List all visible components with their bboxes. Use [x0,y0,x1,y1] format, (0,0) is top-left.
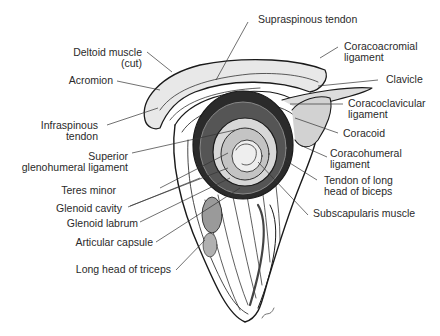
label-text: glenohumeral ligament [4,162,128,173]
label-text: Long head of triceps [76,263,171,275]
label-coracoclavicular-ligament: Coracoclavicular ligament [348,98,426,120]
label-articular-capsule: Articular capsule [40,237,153,248]
label-text: ligament [344,52,418,63]
label-teres-minor: Teres minor [40,185,116,196]
label-coracoid: Coracoid [343,128,385,139]
label-superior-glenohumeral-ligament: Superior glenohumeral ligament [4,151,128,173]
label-clavicle: Clavicle [386,74,423,85]
label-text: tendon [30,131,98,142]
label-infraspinous-tendon: Infraspinous tendon [30,120,98,142]
label-text: Articular capsule [75,236,153,248]
label-supraspinous-tendon: Supraspinous tendon [258,14,357,25]
label-subscapularis-muscle: Subscapularis muscle [313,208,415,219]
label-text: head of biceps [324,186,393,197]
label-coracohumeral-ligament: Coracohumeral ligament [330,148,402,170]
label-text: Subscapularis muscle [313,207,415,219]
label-text: ligament [348,109,426,120]
label-text: Teres minor [61,184,116,196]
label-long-head-of-triceps: Long head of triceps [40,264,171,275]
label-text: Glenoid labrum [67,217,138,229]
label-deltoid-muscle: Deltoid muscle (cut) [60,47,142,69]
label-text: Acromion [69,74,113,86]
anatomy-diagram: Supraspinous tendon Deltoid muscle (cut)… [0,0,440,336]
label-text: Glenoid cavity [56,202,122,214]
label-glenoid-cavity: Glenoid cavity [40,203,122,214]
label-text: Clavicle [386,73,423,85]
label-text: ligament [330,159,402,170]
label-biceps-tendon: Tendon of long head of biceps [324,175,393,197]
label-text: Supraspinous tendon [258,13,357,25]
label-text: (cut) [60,58,142,69]
label-text: Coracoid [343,127,385,139]
label-acromion: Acromion [40,75,113,86]
label-coracoacromial-ligament: Coracoacromial ligament [344,41,418,63]
label-glenoid-labrum: Glenoid labrum [40,218,138,229]
